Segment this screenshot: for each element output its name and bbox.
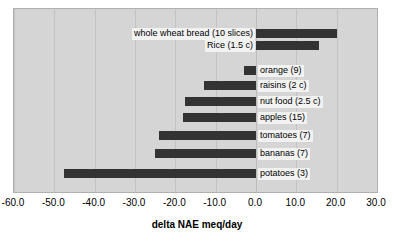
x-tick--20: -20.0 bbox=[154, 196, 194, 210]
bar bbox=[204, 81, 256, 90]
gridline--50 bbox=[54, 9, 55, 192]
bar bbox=[256, 41, 319, 50]
bar bbox=[64, 169, 256, 178]
bar-label: potatoes (3) bbox=[258, 168, 310, 180]
gridline-30 bbox=[377, 9, 378, 192]
gridline--60 bbox=[14, 9, 15, 192]
x-tick-20: 20.0 bbox=[316, 196, 356, 210]
x-tick--30: -30.0 bbox=[114, 196, 154, 210]
gridline--40 bbox=[95, 9, 96, 192]
bar bbox=[159, 131, 256, 140]
gridline-20 bbox=[337, 9, 338, 192]
bar-label: orange (9) bbox=[258, 65, 304, 77]
x-tick--40: -40.0 bbox=[74, 196, 114, 210]
bar-label: whole wheat bread (10 slices) bbox=[132, 28, 255, 40]
bar-label: raisins (2 c) bbox=[258, 80, 309, 92]
x-tick--60: -60.0 bbox=[0, 196, 33, 210]
x-tick-0: 0.0 bbox=[235, 196, 275, 210]
x-tick-30: 30.0 bbox=[356, 196, 394, 210]
bar bbox=[256, 29, 337, 38]
x-tick--50: -50.0 bbox=[33, 196, 73, 210]
bar bbox=[185, 97, 256, 106]
bar bbox=[155, 149, 256, 158]
x-tick--10: -10.0 bbox=[195, 196, 235, 210]
clipped-chart-title bbox=[0, 0, 394, 8]
bar-chart: whole wheat bread (10 slices)Rice (1.5 c… bbox=[0, 0, 394, 246]
bar-label: Rice (1.5 c) bbox=[205, 40, 255, 52]
bar bbox=[183, 113, 256, 122]
bar-label: tomatoes (7) bbox=[258, 130, 313, 142]
bar bbox=[244, 66, 256, 75]
x-axis-title: delta NAE meq/day bbox=[0, 219, 394, 230]
plot-area: whole wheat bread (10 slices)Rice (1.5 c… bbox=[13, 8, 378, 193]
x-axis-tick-labels: -60.0-50.0-40.0-30.0-20.0-10.00.010.020.… bbox=[0, 196, 394, 210]
bar-label: bananas (7) bbox=[258, 148, 310, 160]
bar-label: nut food (2.5 c) bbox=[258, 96, 323, 108]
bar-label: apples (15) bbox=[258, 112, 307, 124]
x-tick-10: 10.0 bbox=[275, 196, 315, 210]
